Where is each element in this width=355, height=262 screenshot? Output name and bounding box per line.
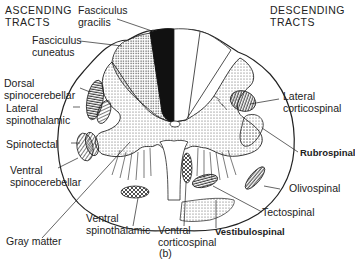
central-canal bbox=[170, 121, 180, 127]
label-line: Dorsal bbox=[4, 78, 75, 90]
label-line: Ventral bbox=[10, 165, 81, 177]
label-ventral-corticospinal: Ventral corticospinal bbox=[158, 225, 216, 248]
label-line: Olivospinal bbox=[289, 183, 340, 195]
label-line: Fasciculus bbox=[78, 5, 128, 17]
heading-line: TRACTS bbox=[5, 17, 72, 29]
label-line: spinothalamic bbox=[86, 225, 150, 237]
label-line: Ventral bbox=[158, 225, 216, 237]
label-ventral-spinocerebellar: Ventral spinocerebellar bbox=[10, 165, 81, 188]
label-tectospinal: Tectospinal bbox=[262, 207, 315, 219]
label-line: Vestibulospinal bbox=[215, 226, 285, 238]
label-gray-matter: Gray matter bbox=[6, 236, 61, 248]
label-line: spinocerebellar bbox=[10, 177, 81, 189]
ventral-corticospinal-region bbox=[182, 153, 192, 183]
panel-letter: (b) bbox=[159, 248, 172, 260]
label-line: spinocerebellar bbox=[4, 90, 75, 102]
heading-line: DESCENDING bbox=[270, 5, 345, 17]
label-line: spinothalamic bbox=[6, 115, 70, 127]
label-olivospinal: Olivospinal bbox=[289, 183, 340, 195]
heading-line: TRACTS bbox=[270, 17, 345, 29]
label-spinotectal: Spinotectal bbox=[6, 139, 58, 151]
label-line: Spinotectal bbox=[6, 139, 58, 151]
label-line: Tectospinal bbox=[262, 207, 315, 219]
label-line: Lateral bbox=[6, 103, 70, 115]
heading-line: ASCENDING bbox=[5, 5, 72, 17]
ventral-spinothalamic-region bbox=[121, 186, 149, 198]
label-line: Fasciculus bbox=[32, 35, 82, 47]
label-lateral-corticospinal: Lateral corticospinal bbox=[283, 91, 341, 114]
label-line: Lateral bbox=[283, 91, 341, 103]
label-rubrospinal: Rubrospinal bbox=[300, 147, 355, 159]
label-line: cuneatus bbox=[32, 47, 82, 59]
label-fasciculus-gracilis: Fasciculus gracilis bbox=[78, 5, 128, 28]
label-line: gracilis bbox=[78, 17, 128, 29]
label-fasciculus-cuneatus: Fasciculus cuneatus bbox=[32, 35, 82, 58]
label-ventral-spinothalamic: Ventral spinothalamic bbox=[86, 213, 150, 236]
descending-tracts-heading: DESCENDING TRACTS bbox=[270, 5, 345, 28]
label-lateral-spinothalamic: Lateral spinothalamic bbox=[6, 103, 70, 126]
label-vestibulospinal: Vestibulospinal bbox=[215, 226, 285, 238]
label-line: Ventral bbox=[86, 213, 150, 225]
label-dorsal-spinocerebellar: Dorsal spinocerebellar bbox=[4, 78, 75, 101]
ascending-tracts-heading: ASCENDING TRACTS bbox=[5, 5, 72, 28]
label-line: corticospinal bbox=[283, 103, 341, 115]
label-line: Rubrospinal bbox=[300, 147, 355, 159]
